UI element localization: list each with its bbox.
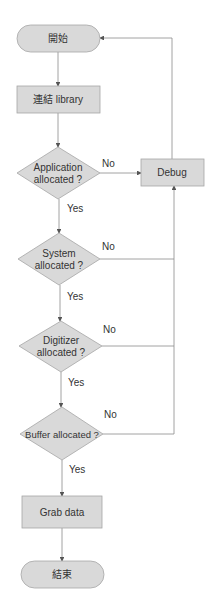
edge-label-sys-yes: Yes — [67, 291, 83, 302]
edge-label-buf-yes: Yes — [69, 464, 85, 475]
node-sys-label-1: System — [42, 248, 75, 259]
node-app-label-2: allocated ? — [34, 174, 83, 185]
node-debug-label: Debug — [157, 167, 186, 178]
edge-label-buf-no: No — [104, 409, 117, 420]
node-link-label: 連結 library — [33, 93, 83, 105]
node-sys-label-2: allocated ? — [35, 260, 84, 271]
node-end-label: 結束 — [52, 568, 72, 580]
node-sys — [18, 233, 100, 285]
node-dig-label-1: Digitizer — [43, 335, 80, 346]
edge-label-dig-yes: Yes — [68, 377, 84, 388]
node-start-label: 開始 — [48, 32, 68, 44]
node-app-label-1: Application — [34, 162, 83, 173]
node-buf-label: Buffer allocated ? — [25, 429, 99, 440]
edge-label-dig-no: No — [103, 324, 116, 335]
node-dig-label-2: allocated ? — [37, 347, 86, 358]
edge-label-sys-no: No — [102, 241, 115, 252]
node-grab-label: Grab data — [40, 507, 85, 518]
edge-label-app-yes: Yes — [67, 203, 83, 214]
edge-debug-start — [100, 38, 172, 159]
edge-label-app-no: No — [102, 158, 115, 169]
flowchart: 開始 連結 library Application allocated ? Sy… — [0, 0, 217, 601]
node-app — [17, 147, 100, 199]
